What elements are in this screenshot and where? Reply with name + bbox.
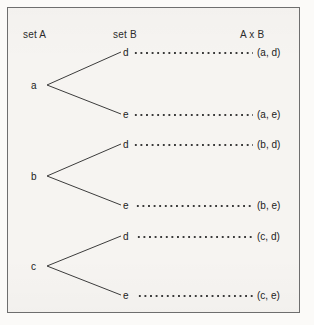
leader-c-e <box>137 295 253 297</box>
diagram-page: set A set B A x B a b c d e d e d e (a, … <box>0 0 314 325</box>
column-heading-set-a: set A <box>23 29 46 40</box>
leader-a-d <box>133 52 253 54</box>
node-set-b-a-e: e <box>123 109 129 120</box>
node-set-b-c-d: d <box>123 231 129 242</box>
node-set-b-b-e: e <box>123 200 129 211</box>
pair-c-e: (c, e) <box>257 290 280 301</box>
leader-b-d <box>133 144 253 146</box>
column-heading-a-x-b: A x B <box>240 29 264 40</box>
node-set-b-c-e: e <box>123 290 129 301</box>
column-heading-set-b: set B <box>113 29 137 40</box>
pair-a-d: (a, d) <box>257 47 280 58</box>
node-set-a-0: a <box>31 80 37 91</box>
node-set-b-b-d: d <box>123 139 129 150</box>
pair-a-e: (a, e) <box>257 109 280 120</box>
pair-b-e: (b, e) <box>257 200 280 211</box>
node-set-a-2: c <box>31 261 36 272</box>
node-set-a-1: b <box>31 171 37 182</box>
leader-b-e <box>135 205 253 207</box>
pair-c-d: (c, d) <box>257 231 280 242</box>
pair-b-d: (b, d) <box>257 139 280 150</box>
leader-a-e <box>133 114 253 116</box>
leader-c-d <box>136 236 253 238</box>
node-set-b-a-d: d <box>123 47 129 58</box>
